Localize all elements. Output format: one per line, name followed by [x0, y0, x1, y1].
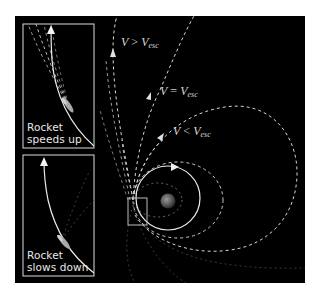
label-v: V — [173, 124, 180, 138]
faint-orbit-lines — [127, 205, 305, 290]
fan-trajectories — [122, 140, 163, 200]
label-elliptical: V<Vesc — [173, 124, 211, 139]
caption-slows-down: Rocket slows down — [27, 249, 89, 273]
planet-icon — [161, 194, 176, 209]
hyperbolic-arrow-icon — [110, 48, 116, 57]
caption-line: slows down — [27, 261, 89, 273]
caption-line: Rocket — [27, 249, 89, 261]
label-hyperbolic: V>Vesc — [121, 35, 159, 50]
label-v: V — [121, 35, 128, 49]
elliptical-trajectory — [133, 106, 297, 251]
label-v: V — [160, 84, 167, 98]
label-parabolic: V=Vesc — [160, 84, 198, 99]
caption-line: speeds up — [27, 133, 82, 145]
label-op: < — [183, 124, 190, 138]
circular-orbit-arrow-icon — [171, 163, 179, 171]
caption-speeds-up: Rocket speeds up — [27, 121, 82, 145]
elliptical-arrow-icon — [157, 133, 164, 141]
parabolic-arrow-icon — [146, 92, 151, 100]
label-sub: esc — [187, 90, 197, 99]
label-op: > — [131, 35, 138, 49]
label-sub: esc — [148, 41, 158, 50]
label-op: = — [170, 84, 177, 98]
label-sub: esc — [200, 130, 210, 139]
caption-line: Rocket — [27, 121, 82, 133]
